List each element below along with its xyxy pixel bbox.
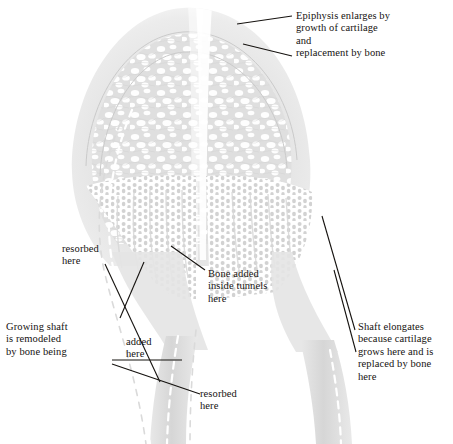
label-growing-shaft-remodeled: Growing shaft is remodeled by bone being [6,321,112,358]
bone-growth-diagram: Epiphysis enlarges by growth of cartilag… [0,0,453,444]
label-added-here: added here [126,336,178,361]
label-shaft-elongates: Shaft elongates because cartilage grows … [358,321,453,383]
leader-shaft-upper [322,216,355,330]
leader-epiphysis-upper [237,16,292,24]
label-bone-added-inside-tunnels: Bone added inside tunnels here [208,268,308,305]
label-resorbed-bottom: resorbed here [200,388,262,413]
label-resorbed-top: resorbed here [62,243,132,268]
leader-shaft-lower [334,270,356,352]
label-epiphysis: Epiphysis enlarges by growth of cartilag… [296,10,446,60]
